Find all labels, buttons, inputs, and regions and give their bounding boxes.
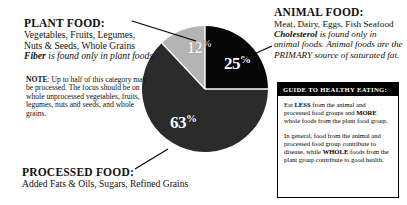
pie-label-plant-food: 12% xyxy=(187,39,212,56)
plant-food-line-1: Vegetables, Fruits, Legumes, xyxy=(24,30,172,41)
animal-food-heading: ANIMAL FOOD: xyxy=(274,6,406,18)
pie-label-processed-value: 63 xyxy=(170,113,186,132)
animal-food-line-1: Meat, Dairy, Eggs, Fish Seafood xyxy=(274,19,406,29)
callout-plant-food: PLANT FOOD: Vegetables, Fruits, Legumes,… xyxy=(24,17,172,62)
animal-food-emphasis-2: PRIMARY xyxy=(274,50,312,60)
guide-box-body: Eat LESS from the animal and processed f… xyxy=(278,96,398,164)
pie-label-processed-food: 63% xyxy=(170,113,197,131)
plant-food-emphasis: Fiber xyxy=(24,50,46,61)
pie-label-animal-value: 25 xyxy=(224,54,240,73)
guide-paragraph-1: Eat LESS from the animal and processed f… xyxy=(284,101,392,126)
infographic-canvas: 25% 63% 12% PLANT FOOD: Vegetables, Frui… xyxy=(0,0,407,205)
guide-paragraph-2: In general, food from the animal and pro… xyxy=(284,132,392,165)
animal-food-line-4-text: source of saturated fat. xyxy=(312,50,399,60)
plant-food-heading: PLANT FOOD: xyxy=(24,17,172,29)
animal-food-line-4: PRIMARY source of saturated fat. xyxy=(274,50,406,60)
animal-food-emphasis: Cholesterol xyxy=(274,29,317,39)
callout-animal-food: ANIMAL FOOD: Meat, Dairy, Eggs, Fish Sea… xyxy=(274,6,406,60)
callout-note: NOTE: Up to half of this category may be… xyxy=(26,76,154,118)
animal-food-line-3: animal foods. Animal foods are the xyxy=(274,39,406,49)
guide-p1-e: whole foods from the plant food group. xyxy=(284,117,388,124)
guide-p1-more: MORE xyxy=(356,109,377,116)
plant-food-line-3-text: is found only in plant foods. xyxy=(46,50,156,61)
guide-p1-a: Eat xyxy=(284,101,294,108)
pie-label-animal-food: 25% xyxy=(224,54,251,72)
processed-food-line-1: Added Fats & Oils, Sugars, Refined Grain… xyxy=(22,179,222,190)
pie-label-processed-symbol: % xyxy=(186,112,197,124)
processed-food-heading: PROCESSED FOOD: xyxy=(22,166,222,178)
callout-processed-food: PROCESSED FOOD: Added Fats & Oils, Sugar… xyxy=(22,166,222,190)
guide-p1-less: LESS xyxy=(294,101,310,108)
guide-p2-whole: WHOLE xyxy=(323,148,349,155)
pie-label-animal-symbol: % xyxy=(240,53,251,65)
plant-food-line-3: Fiber is found only in plant foods. xyxy=(24,51,172,62)
note-paragraph: NOTE: Up to half of this category may be… xyxy=(26,76,154,118)
pie-label-plant-value: 12 xyxy=(187,39,202,56)
pie-label-plant-symbol: % xyxy=(202,38,212,49)
animal-food-line-2-text: is found only in xyxy=(317,29,376,39)
animal-food-line-2: Cholesterol is found only in xyxy=(274,29,406,39)
guide-box-title: GUIDE TO HEALTHY EATING: xyxy=(278,83,398,96)
guide-to-healthy-eating-box: GUIDE TO HEALTHY EATING: Eat LESS from t… xyxy=(277,82,399,198)
